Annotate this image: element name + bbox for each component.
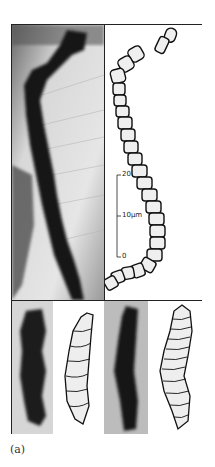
bottom-drawing-1 (53, 301, 104, 434)
scale-label-20: 20 (122, 170, 131, 178)
scale-label-10um: 10µm (122, 211, 142, 219)
figure-frame: 20 10µm 0 (11, 24, 202, 434)
figure-label: (a) (10, 443, 25, 456)
chromosome-drawing (105, 25, 203, 300)
top-micrograph (12, 25, 104, 300)
bottom-drawing-2 (148, 301, 202, 434)
scale-bar (117, 175, 121, 257)
micrograph-image (12, 25, 104, 300)
scale-label-0: 0 (122, 252, 126, 260)
bottom-micrograph-2 (104, 301, 148, 434)
bottom-micrograph-1 (12, 301, 53, 434)
top-drawing: 20 10µm 0 (104, 25, 203, 300)
